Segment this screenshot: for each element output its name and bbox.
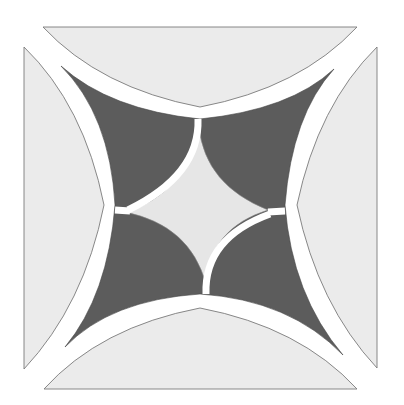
separator-left-horizontal xyxy=(115,210,130,211)
separator-right-horizontal xyxy=(268,211,285,212)
geometric-tile-figure xyxy=(0,0,404,405)
